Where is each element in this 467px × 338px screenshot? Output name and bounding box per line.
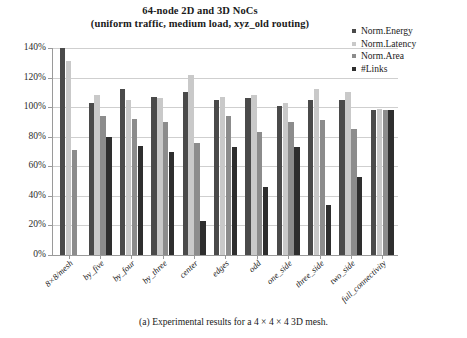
bar-norm-energy[interactable] bbox=[245, 98, 250, 255]
bar-norm-energy[interactable] bbox=[151, 97, 156, 255]
bar-groups bbox=[53, 48, 398, 255]
x-axis-label-cell: full_connectivity bbox=[366, 256, 397, 316]
bar-norm-area[interactable] bbox=[226, 116, 231, 255]
x-axis-label-cell: by_five bbox=[83, 256, 114, 316]
plot-area bbox=[52, 48, 398, 256]
bar-group bbox=[53, 48, 84, 255]
bar-norm-area[interactable] bbox=[72, 150, 77, 255]
legend-swatch-icon bbox=[352, 42, 356, 46]
x-axis-label-cell: 8×8/mesh bbox=[52, 256, 83, 316]
bar-group bbox=[210, 48, 241, 255]
bar-norm-latency[interactable] bbox=[126, 100, 131, 255]
bar-norm-energy[interactable] bbox=[89, 103, 94, 255]
bar-norm-area[interactable] bbox=[163, 122, 168, 255]
x-axis-label-cell: by_four bbox=[115, 256, 146, 316]
x-axis-tick-label: by_five bbox=[81, 258, 106, 282]
bar-norm-energy[interactable] bbox=[120, 89, 125, 255]
bar-norm-latency[interactable] bbox=[314, 89, 319, 255]
bar-norm-latency[interactable] bbox=[157, 98, 162, 255]
bar-group bbox=[147, 48, 178, 255]
y-axis-tick-label: 20% bbox=[6, 220, 46, 230]
x-axis-labels: 8×8/meshby_fiveby_fourby_threecenteredge… bbox=[52, 256, 397, 316]
bar-norm-latency[interactable] bbox=[220, 97, 225, 255]
y-axis-tick-label: 80% bbox=[6, 132, 46, 142]
y-axis-tick-label: 40% bbox=[6, 191, 46, 201]
bar-links[interactable] bbox=[200, 221, 205, 255]
bar-group bbox=[84, 48, 115, 255]
bar-norm-area[interactable] bbox=[351, 129, 356, 255]
bar-group bbox=[116, 48, 147, 255]
x-axis-label-cell: odd bbox=[240, 256, 271, 316]
y-axis-tick-label: 100% bbox=[6, 102, 46, 112]
bar-norm-latency[interactable] bbox=[377, 109, 382, 255]
bar-links[interactable] bbox=[232, 147, 237, 255]
bar-norm-latency[interactable] bbox=[94, 95, 99, 255]
bar-norm-energy[interactable] bbox=[371, 110, 376, 255]
bar-group bbox=[241, 48, 272, 255]
x-axis-tick-label: by_four bbox=[111, 258, 137, 284]
bar-norm-area[interactable] bbox=[288, 122, 293, 255]
chart-title-line-1: 64-node 2D and 3D NoCs bbox=[60, 4, 340, 17]
y-axis-tick-label: 120% bbox=[6, 73, 46, 83]
x-axis-tick-label: 8×8/mesh bbox=[42, 258, 74, 289]
bar-norm-area[interactable] bbox=[383, 110, 388, 255]
x-axis-label-cell: by_three bbox=[146, 256, 177, 316]
chart-title-line-2: (uniform traffic, medium load, xyz_old r… bbox=[60, 17, 340, 30]
bar-norm-energy[interactable] bbox=[214, 100, 219, 255]
bar-links[interactable] bbox=[388, 110, 393, 255]
bar-norm-area[interactable] bbox=[100, 116, 105, 255]
x-axis-tick-label: odd bbox=[246, 258, 262, 274]
figure-caption: (a) Experimental results for a 4 × 4 × 4… bbox=[0, 316, 467, 327]
x-axis-tick-label: edges bbox=[210, 258, 231, 279]
bar-group bbox=[367, 48, 398, 255]
bar-norm-energy[interactable] bbox=[277, 106, 282, 255]
legend-item-0[interactable]: Norm.Energy bbox=[352, 25, 464, 38]
bar-norm-latency[interactable] bbox=[66, 61, 71, 255]
bar-norm-area[interactable] bbox=[132, 119, 137, 255]
bar-links[interactable] bbox=[357, 177, 362, 255]
bar-norm-energy[interactable] bbox=[308, 100, 313, 255]
bar-group bbox=[304, 48, 335, 255]
y-axis-tick-label: 140% bbox=[6, 43, 46, 53]
x-axis-label-cell: edges bbox=[209, 256, 240, 316]
bar-group bbox=[273, 48, 304, 255]
bar-links[interactable] bbox=[169, 152, 174, 256]
chart-title: 64-node 2D and 3D NoCs (uniform traffic,… bbox=[60, 4, 340, 30]
bar-links[interactable] bbox=[138, 146, 143, 255]
bar-norm-energy[interactable] bbox=[60, 48, 65, 255]
bar-norm-latency[interactable] bbox=[188, 75, 193, 255]
bar-norm-area[interactable] bbox=[194, 143, 199, 255]
bar-norm-energy[interactable] bbox=[183, 92, 188, 255]
y-axis-tick-label: 0% bbox=[6, 250, 46, 260]
bar-norm-latency[interactable] bbox=[251, 95, 256, 255]
x-axis-label-cell: three_side bbox=[303, 256, 334, 316]
x-axis-tick-label: center bbox=[177, 258, 200, 280]
bar-group bbox=[335, 48, 366, 255]
bar-links[interactable] bbox=[106, 137, 111, 255]
bar-links[interactable] bbox=[294, 147, 299, 255]
bar-norm-area[interactable] bbox=[257, 132, 262, 255]
bar-links[interactable] bbox=[326, 205, 331, 255]
x-axis-label-cell: center bbox=[177, 256, 208, 316]
bar-norm-latency[interactable] bbox=[345, 92, 350, 255]
legend-label: Norm.Energy bbox=[361, 26, 413, 36]
bar-norm-latency[interactable] bbox=[283, 103, 288, 255]
bar-group bbox=[178, 48, 209, 255]
bar-norm-area[interactable] bbox=[320, 120, 325, 255]
legend-swatch-icon bbox=[352, 29, 356, 33]
y-axis-tick-label: 60% bbox=[6, 161, 46, 171]
figure-container: 64-node 2D and 3D NoCs (uniform traffic,… bbox=[0, 0, 467, 338]
bar-norm-energy[interactable] bbox=[339, 100, 344, 255]
bar-links[interactable] bbox=[263, 187, 268, 255]
